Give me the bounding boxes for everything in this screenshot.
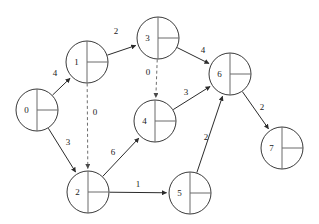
edge-6-to-7 bbox=[242, 92, 268, 129]
edge-weight-3-to-6: 4 bbox=[201, 45, 206, 55]
node-6[interactable]: 6 bbox=[209, 53, 251, 95]
node-3[interactable]: 3 bbox=[137, 17, 179, 59]
node-0-label: 0 bbox=[24, 105, 29, 115]
node-7-label: 7 bbox=[269, 143, 274, 153]
edge-1-to-3 bbox=[107, 46, 135, 56]
edge-weight-0-to-1: 4 bbox=[53, 68, 58, 78]
node-4-label: 4 bbox=[142, 116, 147, 126]
edge-1-to-2 bbox=[87, 83, 88, 168]
edge-weight-3-to-4: 0 bbox=[146, 67, 151, 77]
edge-weight-1-to-2: 0 bbox=[93, 107, 98, 117]
edge-weight-2-to-4: 6 bbox=[111, 147, 116, 157]
edge-weight-6-to-7: 2 bbox=[260, 102, 265, 112]
node-2-label: 2 bbox=[75, 187, 80, 197]
nodes-layer: 01234567 bbox=[16, 17, 303, 214]
node-7[interactable]: 7 bbox=[261, 127, 303, 169]
node-3-label: 3 bbox=[145, 33, 150, 43]
edge-4-to-6 bbox=[173, 86, 210, 109]
network-graph: 01234567 43204061322 bbox=[0, 0, 319, 224]
node-6-label: 6 bbox=[217, 69, 222, 79]
edge-3-to-4 bbox=[156, 59, 157, 97]
edge-weight-2-to-5: 1 bbox=[136, 179, 141, 189]
edge-0-to-1 bbox=[53, 78, 71, 95]
edge-2-to-4 bbox=[103, 138, 139, 176]
edge-weight-5-to-6: 2 bbox=[204, 132, 209, 142]
node-1-label: 1 bbox=[74, 57, 79, 67]
node-4[interactable]: 4 bbox=[134, 100, 176, 142]
edge-weight-0-to-2: 3 bbox=[66, 137, 71, 147]
node-2[interactable]: 2 bbox=[67, 171, 109, 213]
edge-weight-4-to-6: 3 bbox=[184, 87, 189, 97]
edge-0-to-2 bbox=[48, 128, 75, 172]
node-5[interactable]: 5 bbox=[169, 172, 211, 214]
diagram-canvas: 01234567 43204061322 bbox=[0, 0, 319, 224]
edge-5-to-6 bbox=[197, 96, 223, 172]
edge-weight-1-to-3: 2 bbox=[114, 26, 119, 36]
edge-2-to-5 bbox=[109, 192, 166, 193]
node-1[interactable]: 1 bbox=[66, 41, 108, 83]
node-0[interactable]: 0 bbox=[16, 89, 58, 131]
node-5-label: 5 bbox=[177, 188, 182, 198]
